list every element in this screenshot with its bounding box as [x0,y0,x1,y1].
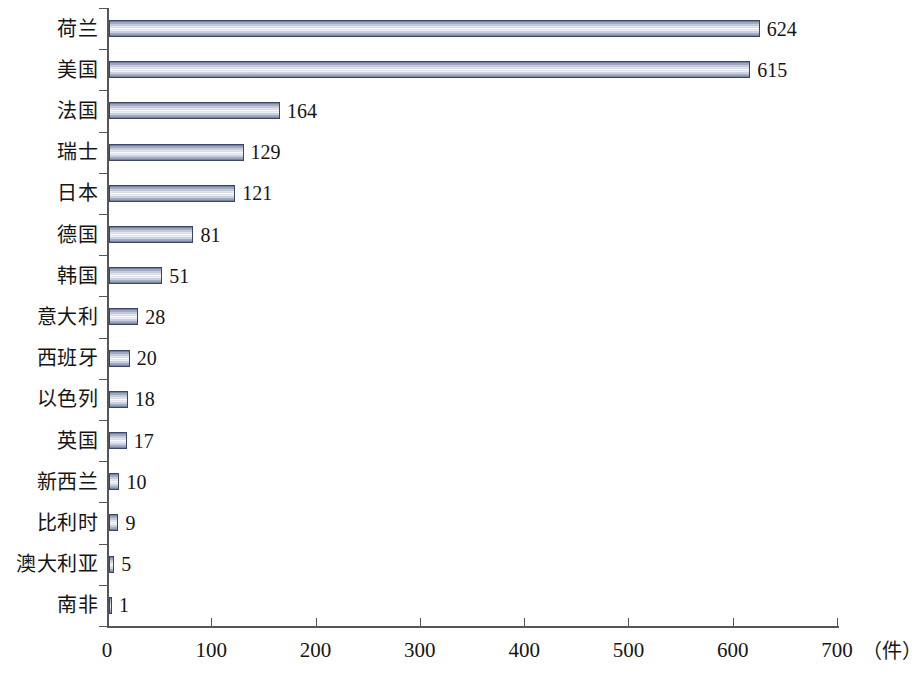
bar-with-value: 81 [109,214,220,255]
x-axis-tick-label: 300 [380,640,460,661]
x-axis-tick [524,618,525,627]
x-axis-tick [837,618,838,627]
bar-row: 法国164 [0,90,923,131]
x-axis-tick-label: 0 [67,640,147,661]
bar [109,350,130,367]
bar-with-value: 1 [109,585,129,626]
y-axis-tick [99,214,108,215]
bar [109,144,244,161]
bar-value-label: 1 [119,595,129,615]
category-label: 以色列 [0,389,98,409]
bar [109,185,235,202]
y-axis-tick [99,502,108,503]
category-label: 德国 [0,225,98,245]
bar-row: 澳大利亚5 [0,544,923,585]
bar-with-value: 164 [109,90,317,131]
bar-with-value: 10 [109,461,146,502]
bar-with-value: 9 [109,502,135,543]
category-label: 澳大利亚 [0,554,98,574]
y-axis-tick [99,544,108,545]
y-axis-tick [99,173,108,174]
y-axis-tick [99,379,108,380]
bar-row: 美国615 [0,49,923,90]
bar-chart: 荷兰624美国615法国164瑞士129日本121德国81韩国51意大利28西班… [0,0,923,677]
y-axis-tick [99,132,108,133]
x-axis-tick [316,618,317,627]
x-axis-tick-label: 600 [693,640,773,661]
bar-value-label: 51 [169,266,189,286]
bar [109,514,118,531]
bar-value-label: 9 [125,513,135,533]
bar-value-label: 121 [242,183,272,203]
bar-value-label: 28 [145,307,165,327]
category-label: 英国 [0,431,98,451]
bar-row: 日本121 [0,173,923,214]
bar-rows: 荷兰624美国615法国164瑞士129日本121德国81韩国51意大利28西班… [0,8,923,626]
bar-value-label: 615 [757,60,787,80]
bar-with-value: 17 [109,420,154,461]
x-axis-line [107,626,839,628]
bar [109,473,119,490]
bar-row: 荷兰624 [0,8,923,49]
x-axis-tick [211,618,212,627]
category-label: 西班牙 [0,348,98,368]
category-label: 意大利 [0,307,98,327]
bar-value-label: 81 [200,225,220,245]
bar-row: 意大利28 [0,296,923,337]
y-axis-tick [99,338,108,339]
x-axis-tick-label: 100 [171,640,251,661]
bar-value-label: 624 [767,19,797,39]
y-axis-tick [99,626,108,627]
bar [109,102,280,119]
bar-value-label: 10 [126,472,146,492]
bar-row: 西班牙20 [0,338,923,379]
bar-row: 德国81 [0,214,923,255]
bar-with-value: 20 [109,338,157,379]
y-axis-tick [99,255,108,256]
category-label: 比利时 [0,513,98,533]
category-label: 新西兰 [0,472,98,492]
bar [109,308,138,325]
bar-with-value: 18 [109,379,155,420]
bar-row: 瑞士129 [0,132,923,173]
y-axis-tick [99,585,108,586]
y-axis-tick [99,296,108,297]
bar [109,391,128,408]
bar [109,556,114,573]
category-label: 日本 [0,183,98,203]
bar-row: 以色列18 [0,379,923,420]
bar-value-label: 20 [137,348,157,368]
bar [109,267,162,284]
bar-with-value: 129 [109,132,281,173]
bar-value-label: 164 [287,101,317,121]
y-axis-tick [99,420,108,421]
bar-row: 韩国51 [0,255,923,296]
bar [109,432,127,449]
category-label: 韩国 [0,266,98,286]
category-label: 美国 [0,60,98,80]
bar [109,597,112,614]
bar [109,20,760,37]
x-axis-tick-label: 400 [484,640,564,661]
bar-value-label: 18 [135,389,155,409]
bar-with-value: 615 [109,49,787,90]
category-label: 瑞士 [0,142,98,162]
x-axis-tick-label: 200 [276,640,356,661]
x-axis-tick [628,618,629,627]
x-axis-unit-label: （件） [862,641,922,661]
bar-with-value: 121 [109,173,272,214]
x-axis-tick-label: 500 [588,640,668,661]
x-axis-tick [733,618,734,627]
x-axis-tick [420,618,421,627]
y-axis-tick [99,49,108,50]
bar [109,226,193,243]
bar-with-value: 624 [109,8,797,49]
bar-value-label: 5 [121,554,131,574]
bar-with-value: 51 [109,255,189,296]
bar-value-label: 17 [134,431,154,451]
category-label: 荷兰 [0,19,98,39]
bar [109,61,750,78]
bar-with-value: 5 [109,544,131,585]
bar-row: 比利时9 [0,502,923,543]
y-axis-tick [99,90,108,91]
